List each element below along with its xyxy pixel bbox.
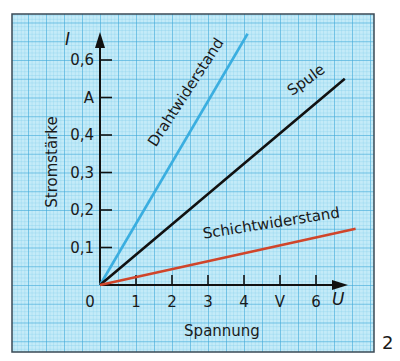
- x-axis-symbol: U: [332, 289, 345, 309]
- figure-number: 2: [382, 332, 393, 353]
- y-axis-title: Stromstärke: [43, 116, 61, 207]
- x-tick-label: 0: [85, 293, 95, 311]
- y-tick-label: 0,1: [70, 239, 94, 257]
- y-tick-label: A: [84, 89, 95, 107]
- y-axis-symbol: I: [65, 29, 70, 49]
- y-tick-label: 0,2: [70, 201, 94, 219]
- x-tick-label: 3: [203, 293, 213, 311]
- y-tick-label: 0,3: [70, 164, 94, 182]
- y-tick-label: 0,4: [70, 126, 94, 144]
- x-axis-title: Spannung: [184, 322, 260, 340]
- chart: 01234V60,10,20,30,4A0,6 I U Stromstärke …: [0, 0, 400, 361]
- x-tick-label: 4: [239, 293, 249, 311]
- y-tick-label: 0,6: [70, 51, 94, 69]
- x-tick-label: 6: [311, 293, 321, 311]
- x-tick-label: 1: [131, 293, 141, 311]
- x-tick-label: 2: [167, 293, 177, 311]
- x-tick-label: V: [275, 293, 286, 311]
